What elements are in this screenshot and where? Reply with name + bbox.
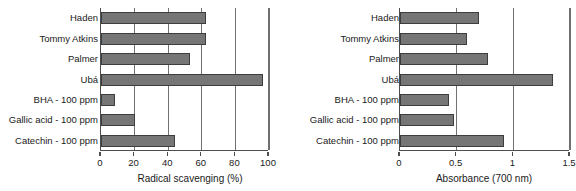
category-label: Haden	[70, 12, 98, 24]
category-label: Catechin - 100 ppm	[316, 135, 399, 147]
category-axis-labels-left: HadenTommy AtkinsPalmerUbáBHA - 100 ppmG…	[0, 8, 98, 159]
bar	[101, 12, 206, 24]
x-tick-label: 20	[128, 157, 139, 168]
category-label: Gallic acid - 100 ppm	[310, 114, 399, 126]
category-label: Ubá	[81, 74, 98, 86]
x-axis-title-right: Absorbance (700 nm)	[436, 173, 532, 184]
x-tick-label: 80	[229, 157, 240, 168]
category-axis-labels-right: HadenTommy AtkinsPalmerUbáBHA - 100 ppmG…	[300, 8, 399, 159]
x-tick-mark	[200, 152, 201, 156]
x-tick-label: 1.5	[562, 157, 575, 168]
chart-panel-absorbance: HadenTommy AtkinsPalmerUbáBHA - 100 ppmG…	[290, 0, 571, 191]
x-tick-mark	[133, 152, 134, 156]
category-label: BHA - 100 ppm	[335, 94, 399, 106]
x-tick-mark	[99, 152, 100, 156]
x-tick-label: 0	[396, 157, 401, 168]
bar	[101, 74, 263, 86]
bar	[400, 33, 467, 45]
bar	[101, 135, 175, 147]
x-tick-label: 0.5	[449, 157, 462, 168]
chart-panel-radical-scavenging: HadenTommy AtkinsPalmerUbáBHA - 100 ppmG…	[0, 0, 290, 191]
x-tick-mark	[267, 152, 268, 156]
gridline	[268, 8, 269, 150]
bar	[101, 33, 206, 45]
category-label: Haden	[371, 12, 399, 24]
x-tick-mark	[455, 152, 456, 156]
category-label: Tommy Atkins	[340, 33, 399, 45]
plot-area-left	[100, 8, 268, 151]
bar	[101, 94, 115, 106]
bar	[101, 114, 135, 126]
category-label: Palmer	[369, 53, 399, 65]
x-tick-label: 0	[97, 157, 102, 168]
x-tick-mark	[512, 152, 513, 156]
x-tick-label: 60	[196, 157, 207, 168]
bar	[400, 114, 454, 126]
category-label: Palmer	[68, 53, 98, 65]
x-axis-title-left: Radical scavenging (%)	[137, 173, 242, 184]
category-label: BHA - 100 ppm	[34, 94, 98, 106]
bar	[400, 94, 449, 106]
category-label: Tommy Atkins	[39, 33, 98, 45]
x-tick-label: 40	[162, 157, 173, 168]
x-tick-mark	[167, 152, 168, 156]
bar	[400, 135, 504, 147]
plot-area-right	[399, 8, 569, 151]
bar	[400, 12, 479, 24]
category-label: Ubá	[382, 74, 399, 86]
category-label: Catechin - 100 ppm	[15, 135, 98, 147]
bar	[400, 74, 553, 86]
bar	[400, 53, 488, 65]
x-tick-label: 100	[260, 157, 276, 168]
x-tick-mark	[234, 152, 235, 156]
gridline	[569, 8, 570, 150]
x-tick-mark	[568, 152, 569, 156]
bar	[101, 53, 190, 65]
x-tick-mark	[398, 152, 399, 156]
x-tick-label: 1	[510, 157, 515, 168]
category-label: Gallic acid - 100 ppm	[9, 114, 98, 126]
